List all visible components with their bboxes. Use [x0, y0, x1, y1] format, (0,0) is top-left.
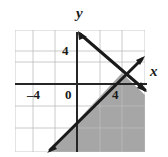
x-axis-label: x: [150, 64, 158, 79]
y-axis-label: y: [76, 6, 83, 21]
x-tick-label-negative-four: –4: [27, 88, 40, 101]
graph-canvas: [0, 0, 168, 157]
x-tick-label-four: 4: [112, 88, 119, 101]
coordinate-graph-figure: y x –4 0 4 4: [0, 0, 168, 157]
y-tick-label-four: 4: [62, 44, 69, 57]
origin-label: 0: [65, 88, 72, 101]
